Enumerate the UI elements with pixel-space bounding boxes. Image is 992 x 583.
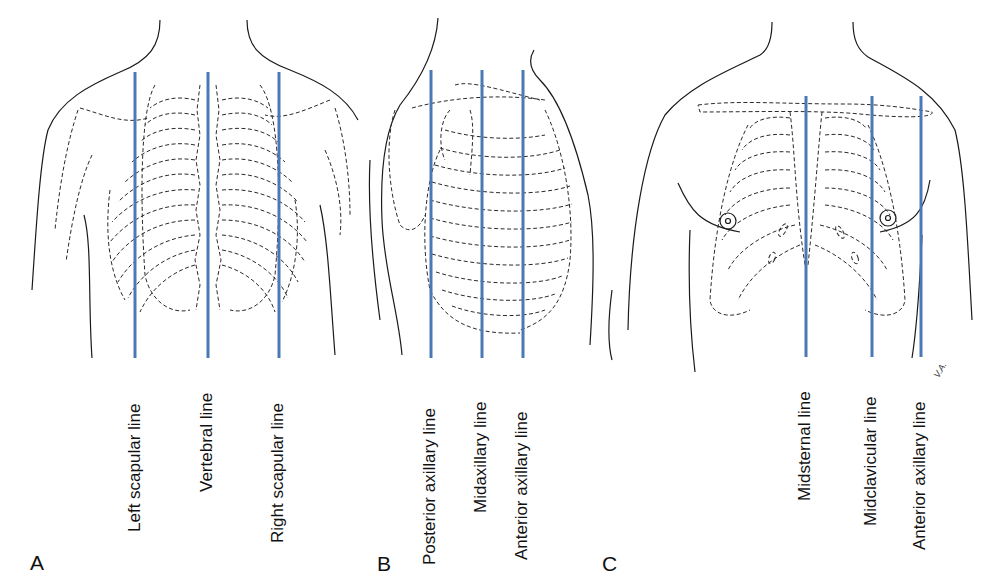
panel-letter-c: C: [602, 553, 617, 574]
label-anterior-axillary-line-b: Anterior axillary line: [513, 412, 530, 560]
ribcage-anterior: [698, 102, 932, 315]
ribcage-posterior: [55, 85, 350, 312]
label-left-scapular-line: Left scapular line: [126, 403, 143, 532]
label-midaxillary-line: Midaxillary line: [472, 402, 489, 513]
label-vertebral-line: Vertebral line: [198, 393, 215, 492]
panel-a-drawing: [32, 20, 358, 358]
panel-letter-a: A: [30, 552, 44, 573]
label-midclavicular-line: Midclavicular line: [862, 397, 879, 526]
label-right-scapular-line: Right scapular line: [269, 403, 286, 543]
panel-b-drawing: [369, 18, 612, 360]
ribcage-lateral: [389, 84, 572, 334]
panel-c-drawing: [628, 22, 972, 372]
panel-letter-b: B: [377, 553, 391, 574]
label-midsternal-line: Midsternal line: [796, 391, 813, 501]
anatomy-figure: [0, 0, 992, 583]
label-posterior-axillary-line: Posterior axillary line: [421, 408, 438, 565]
label-anterior-axillary-line-c: Anterior axillary line: [911, 402, 928, 550]
